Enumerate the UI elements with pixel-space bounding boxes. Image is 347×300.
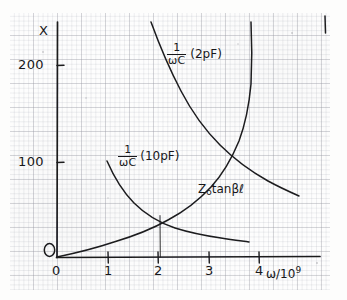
y-axis-line	[57, 22, 58, 258]
x-tick-label-4: 4	[255, 264, 264, 277]
fraction-denominator: ωC	[118, 157, 137, 168]
label-1-over-wc-2pf: 1 ωC (2pF)	[167, 42, 222, 66]
x-tick-label-0: 0	[52, 264, 61, 277]
x-axis-label: ω/109	[266, 266, 301, 280]
curve-1-over-wc-10pf	[107, 161, 249, 242]
fraction-denominator: ωC	[167, 55, 186, 66]
figure-canvas: X 200 100 0 1 2 3 4 ω/109 1 ωC (2pF) 1 ω…	[0, 0, 347, 300]
fraction-numerator: 1	[167, 42, 186, 53]
x-axis-label-exponent: 9	[295, 265, 301, 275]
label-1-over-wc-10pf: 1 ωC (10pF)	[118, 144, 179, 168]
origin-zero-mark	[44, 244, 54, 257]
label-suffix-10pf: (10pF)	[140, 149, 179, 163]
label-tan-beta-l: tanβℓ	[212, 182, 244, 196]
x-tick-label-2: 2	[154, 264, 163, 277]
x-tick-label-1: 1	[104, 264, 113, 277]
y-tick-label-200: 200	[18, 58, 44, 71]
label-suffix-2pf: (2pF)	[190, 47, 222, 61]
label-zo-tan-beta-l: Zotanβℓ	[198, 182, 244, 197]
fraction-1-over-wc-2pf: 1 ωC	[167, 42, 186, 66]
stray-tick-mark	[325, 16, 326, 33]
label-z-symbol: Z	[198, 182, 206, 196]
fraction-numerator: 1	[118, 144, 137, 155]
x-axis-line	[57, 257, 321, 258]
x-axis-label-base: 10	[280, 267, 295, 281]
fraction-1-over-wc-10pf: 1 ωC	[118, 144, 137, 168]
x-tick-label-3: 3	[205, 264, 214, 277]
x-axis-label-omega: ω	[266, 267, 276, 281]
y-axis-label: X	[39, 24, 48, 37]
curve-zo-tan-beta-l	[57, 22, 252, 257]
y-tick-label-100: 100	[18, 155, 44, 168]
